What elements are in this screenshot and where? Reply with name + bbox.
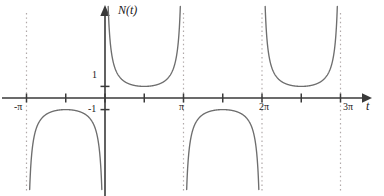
- x-tick-label-pi: π: [179, 102, 184, 112]
- y-axis-label-text: N(t): [118, 3, 137, 17]
- y-tick-label-positive-one: 1: [92, 70, 97, 80]
- y-tick-label-negative-one: -1: [88, 104, 96, 114]
- curve-branch-pi-to-twopi: [187, 110, 259, 190]
- x-tick-label-minus-pi-text: -π: [14, 101, 22, 112]
- axes-group: [2, 5, 372, 196]
- x-tick-label-minus-pi: -π: [14, 102, 22, 112]
- y-tick-label-neg1-text: -1: [88, 103, 96, 114]
- secant-graph-figure: N(t) t 1 -1 -π π 2π 3π: [0, 0, 384, 196]
- x-tick-label-two-pi-text: 2π: [259, 101, 269, 112]
- x-tick-label-two-pi: 2π: [259, 102, 269, 112]
- x-tick-label-pi-text: π: [179, 101, 184, 112]
- curve-branch-zero-to-pi: [108, 7, 180, 87]
- y-tick-label-1-text: 1: [92, 69, 97, 80]
- x-tick-label-three-pi-text: 3π: [343, 101, 353, 112]
- curve-branch-twopi-to-threepi: [265, 7, 337, 87]
- plot-canvas: [0, 0, 384, 196]
- x-axis-label: t: [366, 100, 369, 112]
- x-tick-label-three-pi: 3π: [343, 102, 353, 112]
- curve-branch-minus-pi-to-zero: [30, 110, 102, 190]
- x-axis-label-text: t: [366, 99, 369, 113]
- y-axis-label: N(t): [118, 4, 137, 16]
